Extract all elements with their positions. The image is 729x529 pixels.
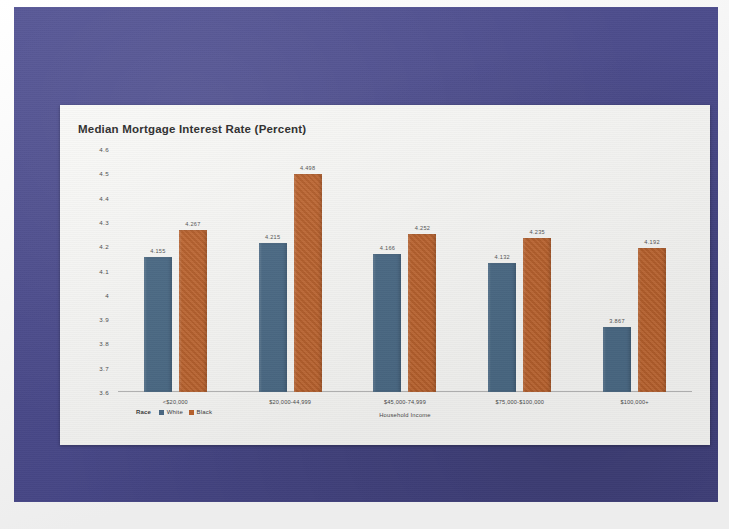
- bar-value-label: 4.235: [530, 229, 546, 235]
- y-tick-label: 4.2: [99, 243, 118, 250]
- plot-area: 4.64.54.44.34.24.143.93.83.73.6 4.1554.2…: [118, 149, 692, 392]
- bar-value-label: 4.215: [265, 234, 281, 240]
- bar-black: 4.192: [638, 248, 666, 392]
- chart-panel-inner: Median Mortgage Interest Rate (Percent) …: [60, 105, 710, 445]
- bar-group: 4.1554.267<$20,000: [118, 149, 233, 392]
- x-tick-label: $100,000+: [620, 399, 648, 405]
- bar-white: 4.215: [259, 243, 287, 392]
- y-tick-label: 4: [105, 291, 118, 298]
- y-tick-label: 3.6: [99, 389, 118, 396]
- bar-black: 4.252: [408, 234, 436, 392]
- legend-label-white: White: [167, 409, 183, 415]
- bar-group: 4.1664.252$45,000-74,999: [348, 149, 463, 392]
- legend-item-white: White: [159, 409, 183, 415]
- bar-black: 4.235: [523, 238, 551, 392]
- y-tick-label: 3.7: [99, 364, 118, 371]
- bar-black: 4.498: [294, 174, 322, 392]
- bar-black: 4.267: [179, 230, 207, 392]
- bar-group: 4.1324.235$75,000-$100,000: [462, 149, 577, 392]
- bar-white: 4.132: [488, 263, 516, 392]
- bar-group: 3.8674.192$100,000+: [577, 149, 692, 392]
- x-tick-label: $75,000-$100,000: [495, 399, 544, 405]
- bar-value-label: 3.867: [609, 318, 625, 324]
- bar-value-label: 4.498: [300, 165, 316, 171]
- chart-panel: Median Mortgage Interest Rate (Percent) …: [60, 105, 710, 445]
- y-tick-label: 4.3: [99, 218, 118, 225]
- legend-swatch-white: [159, 410, 164, 415]
- bar-white: 3.867: [603, 327, 631, 392]
- legend-swatch-black: [189, 410, 194, 415]
- legend-title: Race: [136, 409, 151, 415]
- legend-label-black: Black: [197, 409, 213, 415]
- chart-title: Median Mortgage Interest Rate (Percent): [78, 123, 306, 135]
- x-tick-label: <$20,000: [163, 399, 188, 405]
- y-tick-label: 4.4: [99, 194, 118, 201]
- bar-value-label: 4.252: [415, 225, 431, 231]
- y-tick-label: 3.9: [99, 316, 118, 323]
- bar-value-label: 4.267: [185, 221, 201, 227]
- x-tick-label: $45,000-74,999: [384, 399, 426, 405]
- bar-white: 4.155: [144, 257, 172, 392]
- legend-item-black: Black: [189, 409, 212, 415]
- bar-group: 4.2154.498$20,000-44,999: [233, 149, 348, 392]
- chart-legend: Race White Black: [136, 409, 212, 415]
- bar-value-label: 4.155: [150, 248, 166, 254]
- slide-background: Median Mortgage Interest Rate (Percent) …: [14, 7, 718, 502]
- y-tick-label: 3.8: [99, 340, 118, 347]
- bar-white: 4.166: [373, 254, 401, 392]
- bar-value-label: 4.192: [644, 239, 660, 245]
- bar-value-label: 4.166: [380, 245, 396, 251]
- x-tick-label: $20,000-44,999: [269, 399, 311, 405]
- y-tick-label: 4.5: [99, 170, 118, 177]
- y-tick-label: 4.1: [99, 267, 118, 274]
- bar-value-label: 4.132: [495, 254, 511, 260]
- y-tick-label: 4.6: [99, 146, 118, 153]
